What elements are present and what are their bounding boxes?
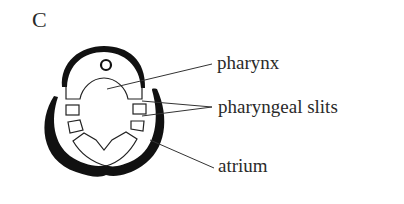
panel-letter: C [32, 7, 47, 32]
label-pharynx: pharynx [217, 52, 280, 73]
cross-section [44, 46, 164, 177]
right-gill-bar-1 [133, 104, 146, 114]
dorsal-arc [62, 46, 145, 88]
slits-leader-2 [142, 107, 212, 116]
left-gill-bar-2 [68, 120, 83, 133]
slits-leader-1 [142, 101, 212, 107]
label-pharyngeal-slits: pharyngeal slits [218, 96, 338, 117]
label-atrium: atrium [218, 155, 268, 176]
upper-pharynx-wall [66, 78, 142, 99]
pharynx-leader [107, 64, 212, 89]
nerve-cord [101, 60, 111, 70]
left-gill-bar-1 [66, 105, 79, 115]
pharynx-outline [66, 78, 146, 166]
endostyle-region [73, 132, 137, 166]
right-gill-bar-2 [131, 121, 144, 131]
diagram-canvas: C pharynx pharyngeal slits atrium [0, 0, 404, 204]
atrium-leader [150, 140, 214, 168]
